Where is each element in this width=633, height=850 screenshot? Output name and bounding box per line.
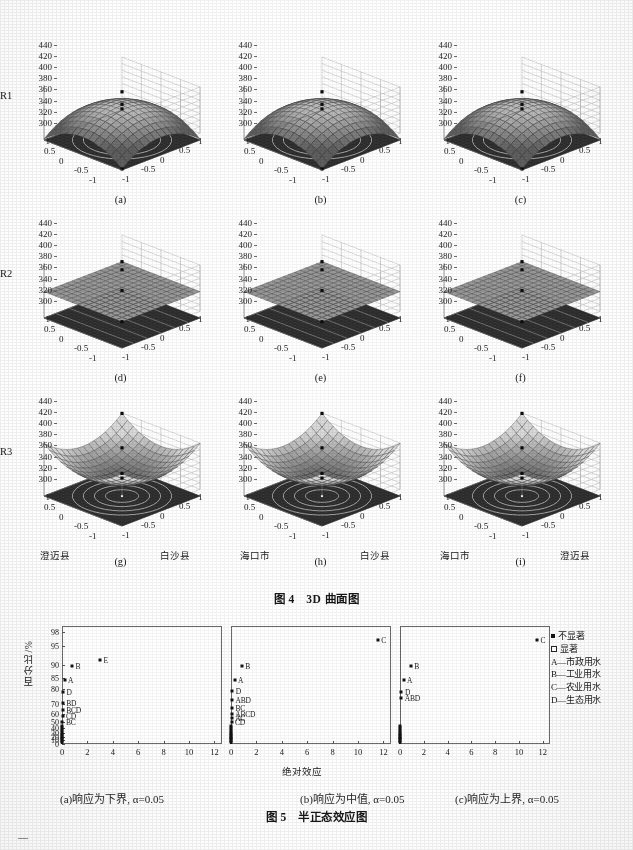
y-tick-label: -1 [489, 353, 497, 363]
effect-label-D: D [66, 688, 71, 697]
z-tick-label: 360 [24, 84, 52, 94]
x-tick-label: -1 [522, 530, 530, 540]
z-tick-mark [454, 279, 457, 280]
half-normal-panel-b: 024681012CBADABDBCABCDACCD [231, 626, 391, 744]
y-tick-label: 0 [459, 334, 464, 344]
x-tick-label: 4 [445, 747, 449, 757]
y-tick-label: 0 [259, 334, 264, 344]
y-tick-label: -0.5 [74, 521, 88, 531]
z-tick-mark [454, 101, 457, 102]
z-tick-label: 320 [24, 285, 52, 295]
x-tick-label: 0 [560, 333, 565, 343]
z-tick-label: 340 [424, 274, 452, 284]
z-tick-mark [54, 78, 57, 79]
z-tick-label: 320 [24, 107, 52, 117]
z-tick-mark [454, 67, 457, 68]
z-tick-label: 320 [424, 107, 452, 117]
z-tick-label: 440 [424, 40, 452, 50]
z-tick-label: 340 [24, 96, 52, 106]
x-tick-mark [383, 741, 384, 744]
x-tick-label: -0.5 [141, 342, 155, 352]
z-tick-mark [254, 78, 257, 79]
z-tick-mark [454, 234, 457, 235]
x-tick-label: 12 [210, 747, 219, 757]
effect-point-D [231, 690, 234, 693]
response-axis-label-R1: R1 [0, 90, 12, 101]
x-tick-label: 0 [560, 155, 565, 165]
figure-5-legend: 不显著显著A—市政用水B—工业用水C—农业用水D—生态用水 [551, 630, 633, 707]
y-tick-label: -1 [89, 531, 97, 541]
y-tick-label: -0.5 [274, 165, 288, 175]
z-tick-label: 300 [24, 474, 52, 484]
z-tick-label: 440 [424, 396, 452, 406]
effect-label-B: B [245, 661, 250, 670]
z-tick-label: 420 [224, 407, 252, 417]
z-tick-label: 320 [424, 463, 452, 473]
z-tick-mark [54, 290, 57, 291]
z-tick-label: 400 [224, 240, 252, 250]
y-axis-max-label: 1 [32, 492, 50, 502]
y-tick-label: 0.5 [244, 502, 255, 512]
x-tick-label: 8 [493, 747, 497, 757]
y-tick-label: -1 [489, 531, 497, 541]
x-tick-mark [333, 741, 334, 744]
x-tick-label: -1 [522, 352, 530, 362]
z-tick-label: 380 [224, 429, 252, 439]
effect-label-A: A [68, 676, 73, 685]
effect-point-CD [61, 715, 64, 718]
x-tick-label: 0.5 [179, 323, 190, 333]
z-tick-label: 360 [424, 440, 452, 450]
x-tick-label: -1 [522, 174, 530, 184]
x-tick-label: 2 [254, 747, 258, 757]
subplot-letter: (i) [418, 556, 623, 567]
filled-square-icon [551, 634, 555, 638]
z-tick-mark [54, 45, 57, 46]
z-tick-mark [54, 479, 57, 480]
effect-label-B: B [75, 662, 80, 671]
x-tick-mark [471, 741, 472, 744]
x-tick-mark [307, 741, 308, 744]
y-axis-max-label: 1 [32, 314, 50, 324]
z-tick-label: 400 [24, 418, 52, 428]
z-tick-label: 320 [24, 463, 52, 473]
plot-frame [62, 626, 222, 744]
y-axis-max-label: 1 [232, 492, 250, 502]
z-tick-label: 380 [24, 429, 52, 439]
y-axis-max-label: 1 [32, 136, 50, 146]
y-axis-max-label: 1 [432, 492, 450, 502]
z-tick-mark [454, 445, 457, 446]
z-tick-mark [254, 45, 257, 46]
z-tick-label: 360 [224, 440, 252, 450]
z-tick-label: 420 [24, 229, 52, 239]
z-tick-label: 360 [424, 262, 452, 272]
page-footer-marker: — [18, 832, 28, 843]
z-tick-mark [254, 256, 257, 257]
effect-point-BD [61, 701, 64, 704]
y-tick-label: -1 [89, 175, 97, 185]
effect-point-A [233, 678, 236, 681]
legend-factor-item: A—市政用水 [551, 656, 633, 669]
z-tick-mark [454, 401, 457, 402]
z-tick-label: 440 [24, 396, 52, 406]
effect-point-ABCD [230, 712, 233, 715]
half-normal-panel-c: 024681012CBADABD [400, 626, 550, 744]
y-tick-label: 0.5 [244, 324, 255, 334]
z-tick-label: 440 [24, 218, 52, 228]
x-tick-label: 0 [160, 155, 165, 165]
half-normal-panel-a: 9895908580706050403020100024681012EBADBD… [62, 626, 222, 744]
effect-point-A [63, 679, 66, 682]
z-tick-mark [254, 412, 257, 413]
x-tick-mark [495, 741, 496, 744]
x-tick-label: 0.5 [179, 501, 190, 511]
z-tick-label: 400 [424, 62, 452, 72]
effect-point-C [535, 638, 538, 641]
y-tick-label: -1 [289, 353, 297, 363]
x-axis-title: 绝对效应 [282, 764, 322, 778]
effect-point-ABD [231, 699, 234, 702]
z-tick-mark [254, 301, 257, 302]
effect-point-D [61, 691, 64, 694]
z-tick-label: 360 [24, 262, 52, 272]
effect-label-C: C [540, 635, 545, 644]
effect-label-A: A [407, 675, 412, 684]
z-tick-label: 400 [24, 240, 52, 250]
